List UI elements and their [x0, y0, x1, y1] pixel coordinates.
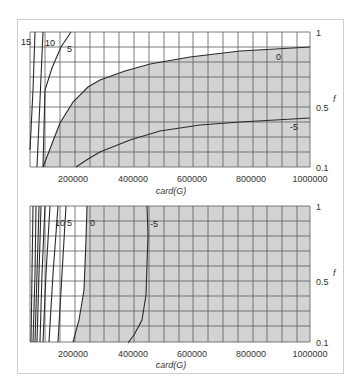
plot2-ytick-0-5: 0.5 [316, 277, 329, 287]
plot1-xtick-400000: 400000 [118, 174, 148, 184]
contour-figure: 15 10 5 0 -5 1 0.5 0.1 f 200000 400000 6… [0, 0, 364, 391]
plot1-contour-10 [37, 32, 43, 167]
plot1-contour-label-15: 15 [21, 37, 31, 47]
plot2-xtick-800000: 800000 [236, 349, 266, 359]
plot1-ytick-1: 1 [316, 28, 321, 38]
plot1-xtick-1000000: 1000000 [292, 174, 327, 184]
plot2-contour-label-10: 10 [55, 218, 65, 228]
plot2-ytick-1: 1 [316, 202, 321, 212]
plot2-ylabel: f [333, 268, 337, 278]
plot2-ytick-0-1: 0.1 [316, 338, 329, 348]
plot1-contour-label-0: 0 [276, 52, 281, 62]
plot1-contour-label-neg5: -5 [290, 122, 298, 132]
plot2-contour-label-0: 0 [90, 218, 95, 228]
plot1-xtick-800000: 800000 [236, 174, 266, 184]
plot1-xlabel: card(G) [156, 186, 187, 196]
plot1-contour-label-10: 10 [45, 38, 55, 48]
plot2-xtick-400000: 400000 [118, 349, 148, 359]
plot2-contour-label-neg5: -5 [150, 219, 158, 229]
plot1-ytick-0-5: 0.5 [316, 103, 329, 113]
plot2-shaded-region [73, 206, 310, 342]
plot2-xlabel: card(G) [156, 360, 187, 370]
plot2-xtick-200000: 200000 [58, 349, 88, 359]
plot1-contour-label-5: 5 [67, 44, 72, 54]
plot2-xtick-600000: 600000 [177, 349, 207, 359]
plot2-contour-a [31, 206, 33, 342]
plot1-ylabel: f [333, 94, 337, 104]
plot-2: 10 5 0 -5 1 0.5 0.1 f 200000 400000 6000… [30, 202, 337, 370]
plot2-contour-label-5: 5 [67, 218, 72, 228]
plot1-contour-15 [30, 32, 35, 150]
plot1-xtick-200000: 200000 [58, 174, 88, 184]
plot2-xtick-1000000: 1000000 [292, 349, 327, 359]
plot-1: 15 10 5 0 -5 1 0.5 0.1 f 200000 400000 6… [21, 28, 337, 196]
plot1-ytick-0-1: 0.1 [316, 163, 329, 173]
plot1-xtick-600000: 600000 [177, 174, 207, 184]
